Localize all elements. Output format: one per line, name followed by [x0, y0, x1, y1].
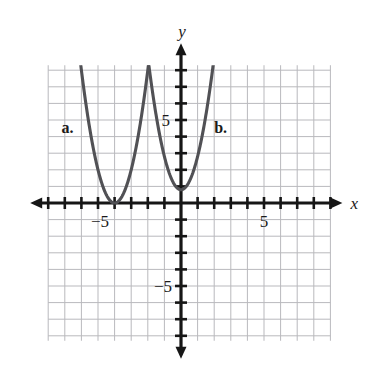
y-axis-label: y	[176, 22, 186, 41]
y-axis-arrow-down	[176, 347, 187, 359]
x-axis-label: x	[349, 194, 358, 213]
graph-figure: −555−5xya.b.	[0, 0, 368, 375]
x-tick-label-neg5: −5	[91, 212, 109, 231]
x-axis-arrow-right	[330, 198, 342, 209]
x-axis-arrow-left	[30, 198, 42, 209]
y-tick-label-neg5: −5	[154, 277, 172, 296]
x-tick-label-5: 5	[260, 212, 269, 231]
parabola-curves	[76, 25, 217, 203]
axes	[30, 43, 342, 359]
curve-annotation-a: a.	[61, 119, 73, 136]
y-tick-label-5: 5	[162, 111, 171, 130]
curve-annotation-b: b.	[214, 119, 227, 136]
y-axis-arrow-up	[176, 43, 187, 55]
